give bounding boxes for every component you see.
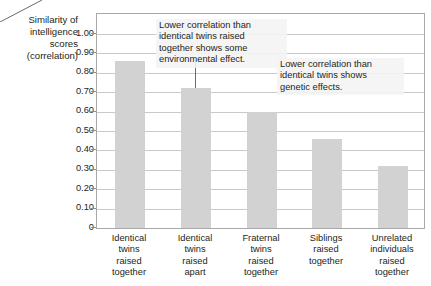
y-axis-tick-label: 0.60 — [54, 106, 94, 115]
annotation-environmental-line-3: together shows some — [159, 43, 284, 54]
x-axis-category-label-line: twins — [92, 244, 166, 255]
annotation-environmental-line-4: environmental effect. — [159, 54, 284, 65]
x-axis-category-label-line: raised — [224, 256, 298, 267]
x-axis-category-label-line: together — [289, 256, 363, 267]
y-axis-tick-label: 0.30 — [54, 164, 94, 173]
y-axis-tick-label: 0.10 — [54, 203, 94, 212]
x-axis-category-label-line: Identical — [92, 233, 166, 244]
x-axis-category-label-line: twins — [158, 244, 232, 255]
x-axis-category-label-line: raised — [158, 256, 232, 267]
y-axis-tick-label: 0.70 — [54, 87, 94, 96]
x-axis-category-label: Identicaltwinsraisedtogether — [92, 233, 166, 278]
x-axis-category-label-line: Fraternal — [224, 233, 298, 244]
y-axis-tick-label: 0.80 — [54, 67, 94, 76]
x-axis-category-label-line: together — [355, 267, 429, 278]
bar-chart: Similarity of intelligence scores (corre… — [0, 0, 431, 286]
annotation-genetic-line-3: genetic effects. — [280, 82, 401, 93]
x-axis-category-label: Siblingsraisedtogether — [289, 233, 363, 267]
x-axis-category-label-line: raised — [289, 244, 363, 255]
x-axis-category-label-line: together — [224, 267, 298, 278]
bar[interactable] — [115, 61, 145, 228]
y-axis-tick-label: 0.50 — [54, 126, 94, 135]
annotation-environmental-line-2: identical twins raised — [159, 31, 284, 42]
y-axis-tick-label: 0.40 — [54, 145, 94, 154]
x-axis-category-label-line: together — [92, 267, 166, 278]
annotation-environmental-line-1: Lower correlation than — [159, 20, 284, 31]
x-axis-category-label: Identicaltwinsraisedapart — [158, 233, 232, 278]
bar[interactable] — [181, 88, 211, 228]
y-axis-tick-label: 0 — [54, 223, 94, 232]
annotation-environmental-effect: Lower correlation than identical twins r… — [156, 19, 287, 68]
x-axis-category-label-line: Unrelated — [355, 233, 429, 244]
x-axis-category-label-line: twins — [224, 244, 298, 255]
annotation-genetic-line-2: identical twins shows — [280, 70, 401, 81]
x-axis-category-label-line: raised — [92, 256, 166, 267]
bar[interactable] — [312, 139, 342, 228]
y-axis-tick-label: 0.90 — [54, 48, 94, 57]
y-axis-title-line-1: Similarity of — [0, 14, 78, 26]
annotation-genetic-effects: Lower correlation than identical twins s… — [277, 58, 404, 95]
x-axis-category-label: Fraternaltwinsraisedtogether — [224, 233, 298, 278]
bar[interactable] — [247, 112, 277, 228]
y-axis-tick-label: 1.00 — [54, 29, 94, 38]
annotation-genetic-line-1: Lower correlation than — [280, 59, 401, 70]
bar[interactable] — [378, 166, 408, 228]
x-axis-category-label-line: Identical — [158, 233, 232, 244]
x-axis-category-label: Unrelatedindividualsraisedtogether — [355, 233, 429, 278]
x-axis-category-label-line: individuals — [355, 244, 429, 255]
x-axis-category-label-line: apart — [158, 267, 232, 278]
x-axis-category-label-line: raised — [355, 256, 429, 267]
y-axis-tick-label: 0.20 — [54, 184, 94, 193]
x-axis-category-label-line: Siblings — [289, 233, 363, 244]
